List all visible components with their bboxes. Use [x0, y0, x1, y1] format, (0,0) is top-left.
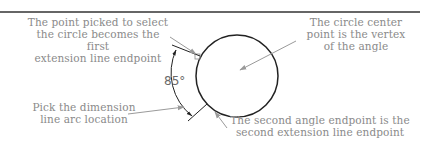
annotation-first-point: The point picked to select the circle be…: [24, 16, 172, 64]
second-extension-line: [188, 104, 207, 121]
dimension-value: 85°: [164, 74, 185, 88]
annotation-vertex: The circle center point is the vertex of…: [294, 16, 418, 52]
circle-geometry: [196, 35, 278, 117]
annotation-second-point: The second angle endpoint is the second …: [222, 114, 418, 138]
diagram-canvas: The point picked to select the circle be…: [0, 0, 424, 151]
annotation-arc-location: Pick the dimension line arc location: [24, 101, 144, 125]
leader-vertex: [240, 41, 296, 70]
